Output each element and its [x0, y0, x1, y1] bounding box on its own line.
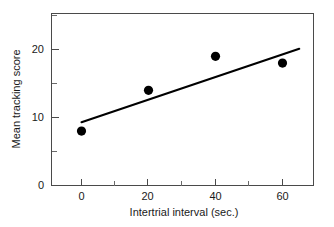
chart-figure: 0 10 20 0 20 40 60 Intertrial interval (… — [0, 0, 334, 227]
scatter-plot-svg: 0 10 20 0 20 40 60 Intertrial interval (… — [0, 0, 334, 227]
x-tick-label-0: 0 — [78, 190, 84, 202]
data-point — [144, 86, 153, 95]
data-point — [211, 52, 220, 61]
plot-border — [52, 14, 314, 186]
y-axis-ticks — [52, 16, 59, 186]
data-point — [278, 59, 287, 68]
y-axis-tick-labels: 0 10 20 — [32, 43, 44, 191]
x-axis-ticks — [82, 179, 283, 186]
y-tick-label-10: 10 — [32, 111, 44, 123]
x-axis-title: Intertrial interval (sec.) — [130, 206, 239, 218]
y-axis-title: Mean tracking score — [10, 49, 22, 148]
x-tick-label-40: 40 — [209, 190, 221, 202]
y-tick-label-0: 0 — [38, 179, 44, 191]
x-axis-tick-labels: 0 20 40 60 — [78, 190, 288, 202]
data-point — [77, 127, 86, 136]
x-tick-label-60: 60 — [276, 190, 288, 202]
regression-line — [82, 49, 300, 122]
axis-frame — [52, 14, 314, 186]
regression-line-group — [82, 49, 300, 122]
x-tick-label-20: 20 — [141, 190, 153, 202]
y-tick-label-20: 20 — [32, 43, 44, 55]
